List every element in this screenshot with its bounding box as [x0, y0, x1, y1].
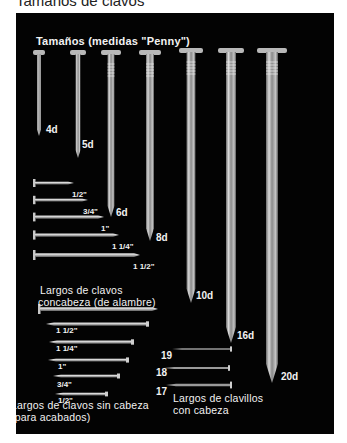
brad-nail — [164, 365, 230, 371]
page-title: Tamaños de clavos — [16, 0, 144, 9]
wire-label-three-quarter: 3/4" — [83, 208, 98, 216]
brad-label-19: 19 — [161, 351, 172, 361]
penny-nail-6d — [101, 50, 121, 217]
penny-nail-4d — [33, 50, 45, 136]
wire-nail — [33, 179, 74, 187]
finish-label-one-quarter: 1 1/4" — [56, 345, 78, 353]
penny-label-16d: 16d — [237, 331, 254, 341]
brad-label-18: 18 — [156, 368, 167, 378]
penny-caption: Tamaños (medidas "Penny") — [36, 35, 190, 47]
finish-nail — [53, 374, 120, 379]
brad-caption-line2: con cabeza — [173, 404, 229, 416]
penny-label-6d: 6d — [116, 208, 128, 218]
wire-label-one-quarter: 1 1/4" — [112, 243, 134, 251]
penny-label-20d: 20d — [281, 372, 298, 382]
finish-label-one-half: 1 1/2" — [56, 327, 78, 335]
wire-label-half: 1/2" — [72, 191, 87, 199]
penny-label-5d: 5d — [82, 140, 94, 150]
wire-nail — [33, 250, 140, 260]
penny-nail-16d — [218, 48, 244, 343]
finish-label-one: 1" — [58, 363, 66, 371]
wire-caption-line2: concabeza (de alambre) — [38, 296, 156, 308]
brad-nail — [166, 382, 232, 389]
finish-label-three-quarter: 3/4" — [57, 381, 72, 389]
nail-sizes-photo: Tamaños (medidas "Penny") 4d 5d 6d 8d 10… — [16, 13, 334, 434]
penny-nail-20d — [257, 48, 287, 383]
penny-label-4d: 4d — [46, 125, 58, 135]
penny-label-8d: 8d — [156, 233, 168, 243]
wire-label-one: 1" — [101, 225, 109, 233]
finish-caption-line2: (para acabados) — [16, 411, 90, 423]
brad-nail — [172, 346, 232, 351]
wire-label-one-half: 1 1/2" — [133, 263, 155, 271]
penny-nail-10d — [179, 48, 203, 303]
penny-nail-8d — [139, 50, 161, 241]
penny-label-10d: 10d — [196, 291, 213, 301]
wire-caption-line1: Largos de clavos — [40, 284, 123, 296]
brad-label-17: 17 — [156, 387, 167, 397]
finish-caption-line1: Largos de clavos sin cabeza — [16, 399, 149, 411]
brad-caption-line1: Largos de clavillos — [173, 392, 263, 404]
